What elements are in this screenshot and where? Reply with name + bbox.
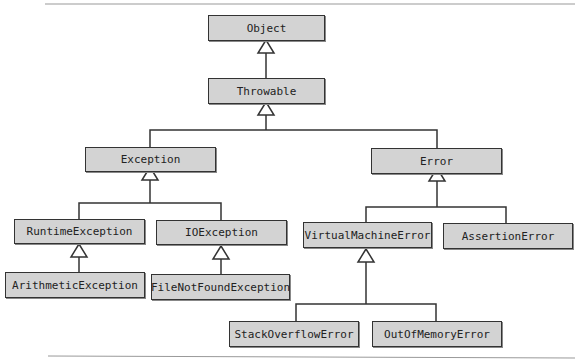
- inheritance-lines: [0, 0, 580, 363]
- class-throwable: Throwable: [208, 78, 325, 104]
- class-stack-overflow-error: StackOverflowError: [229, 321, 359, 347]
- class-runtime-exception: RuntimeException: [14, 219, 145, 244]
- class-error: Error: [371, 148, 502, 174]
- class-virtual-machine-error: VirtualMachineError: [303, 222, 432, 248]
- class-object: Object: [208, 15, 325, 41]
- class-exception: Exception: [85, 147, 216, 172]
- class-arithmetic-exception: ArithmeticException: [5, 272, 145, 298]
- class-file-not-found-exception: FileNotFoundException: [151, 274, 290, 300]
- class-assertion-error: AssertionError: [443, 223, 573, 249]
- class-io-exception: IOException: [156, 220, 287, 245]
- class-out-of-memory-error: OutOfMemoryError: [372, 321, 502, 347]
